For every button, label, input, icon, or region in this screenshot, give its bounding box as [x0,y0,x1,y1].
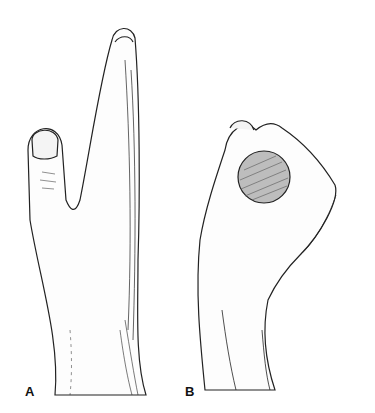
hand-a-drawing [28,28,146,395]
panel-label-b: B [185,384,194,399]
panel-label-a: A [25,384,34,399]
hand-illustrations [0,0,375,413]
round-object [238,151,290,203]
